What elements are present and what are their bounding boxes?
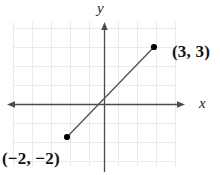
- x-axis-label: x: [199, 96, 206, 111]
- data-point-3-3: [151, 44, 157, 50]
- y-axis-top-arrowhead: [101, 22, 107, 30]
- point-label-3-3: (3, 3): [172, 43, 210, 60]
- y-axis-label: y: [97, 1, 104, 16]
- grid-lines: [13, 22, 176, 166]
- y-axis: [101, 22, 107, 172]
- x-axis-right-arrowhead: [177, 101, 185, 108]
- coordinate-plane-figure: y x (3, 3) (−2, −2): [0, 0, 220, 175]
- data-point-neg2-neg2: [64, 134, 70, 140]
- point-label-neg2-neg2: (−2, −2): [2, 150, 60, 167]
- x-axis-left-arrowhead: [7, 101, 15, 108]
